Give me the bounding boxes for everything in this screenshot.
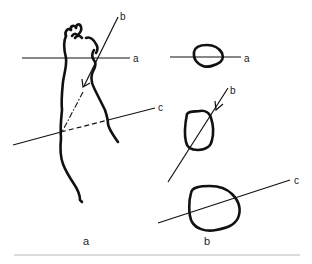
plane-c-line-left	[13, 132, 61, 145]
panel-b-caption: b	[204, 235, 210, 247]
plane-b-projection-dashed	[62, 92, 83, 132]
section-c-label: c	[294, 175, 299, 186]
plane-c-line-right	[108, 108, 155, 120]
section-b-label: b	[230, 85, 236, 96]
panel-a: a b c a	[13, 11, 163, 247]
section-a-label: a	[244, 53, 250, 64]
section-b-plane-line	[168, 88, 228, 182]
panel-b: a b c b	[158, 45, 299, 247]
limb-outline-top-fingers	[72, 34, 82, 38]
plane-a-label: a	[133, 53, 139, 64]
section-b-outline	[185, 111, 213, 150]
plane-c-label: c	[158, 102, 163, 113]
panel-a-caption: a	[83, 235, 90, 247]
limb-outline-shoulder	[86, 37, 98, 53]
plane-b-line	[84, 17, 118, 86]
plane-b-label: b	[120, 11, 126, 22]
section-c-outline	[189, 186, 239, 231]
limb-outline-left	[60, 36, 82, 202]
plane-c-line-dashed	[61, 120, 108, 132]
sectioning-planes-figure: a b c a a b c b	[0, 0, 312, 264]
section-a-outline	[194, 45, 223, 67]
section-c-plane-line	[158, 180, 290, 223]
